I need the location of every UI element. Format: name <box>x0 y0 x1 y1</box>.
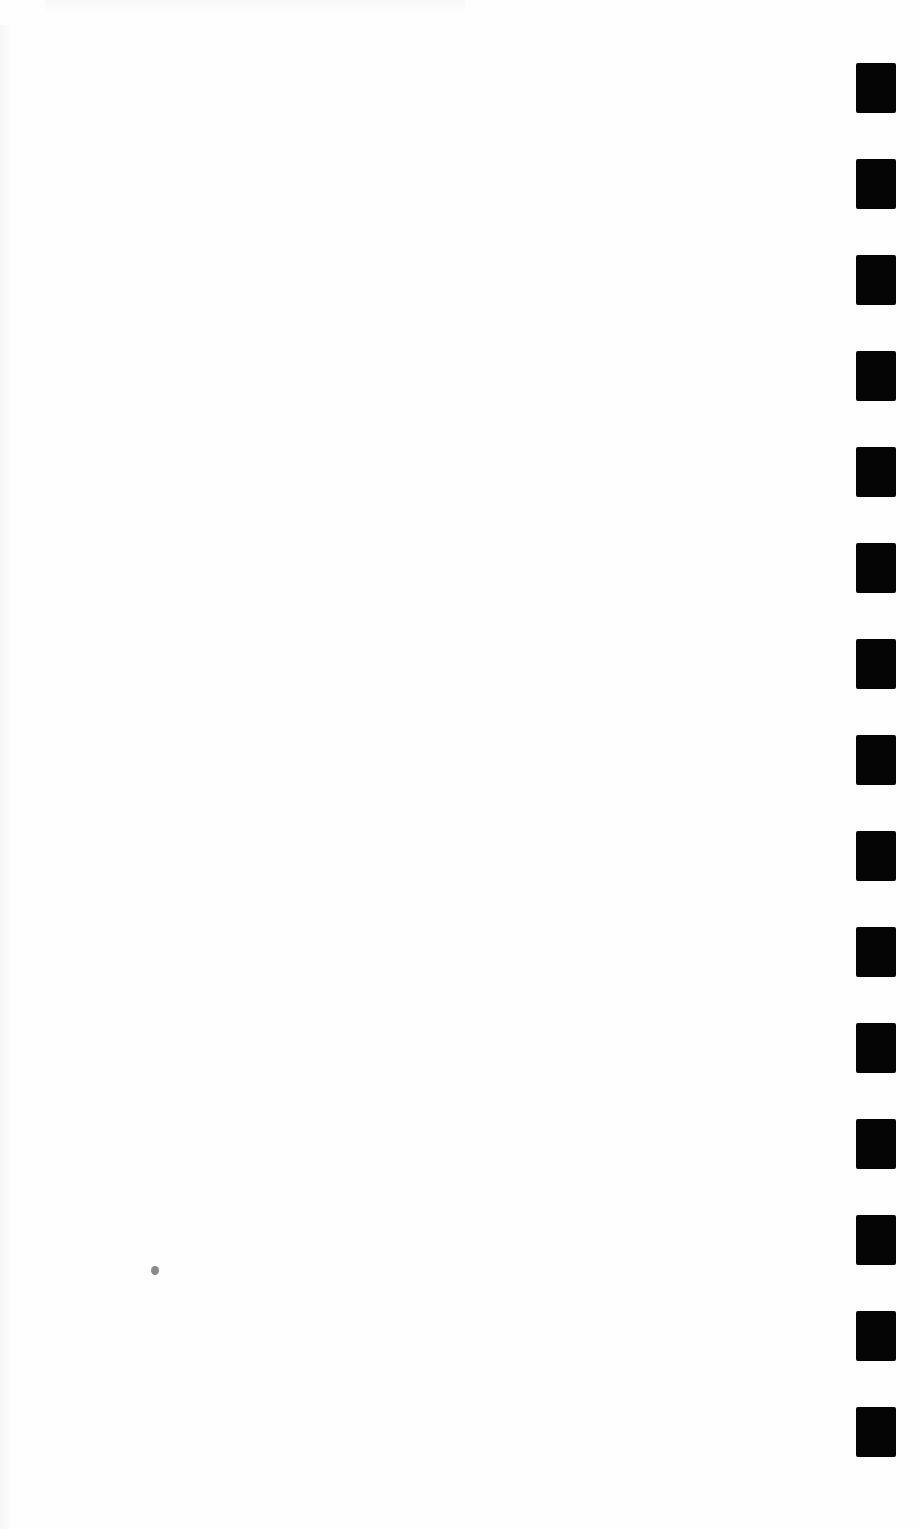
binding-mark <box>856 1023 896 1073</box>
binding-mark <box>856 1407 896 1457</box>
binding-mark <box>856 831 896 881</box>
binding-mark <box>856 1119 896 1169</box>
page-edge-shadow <box>0 25 12 1529</box>
document-page <box>0 0 921 1529</box>
binding-mark <box>856 447 896 497</box>
binding-mark-strip <box>856 0 898 1529</box>
ink-speck <box>151 1266 159 1275</box>
binding-mark <box>856 543 896 593</box>
binding-mark <box>856 639 896 689</box>
binding-mark <box>856 1215 896 1265</box>
binding-mark <box>856 159 896 209</box>
bleed-through-text <box>45 0 465 14</box>
binding-mark <box>856 255 896 305</box>
binding-mark <box>856 63 896 113</box>
binding-mark <box>856 351 896 401</box>
binding-mark <box>856 735 896 785</box>
binding-mark <box>856 927 896 977</box>
binding-mark <box>856 1311 896 1361</box>
